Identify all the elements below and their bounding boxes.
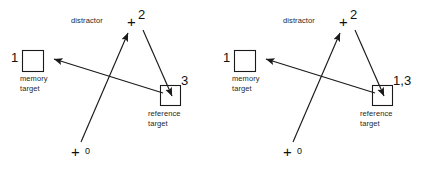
arrow-start-to-distractor [81,33,128,142]
memory-target-caption-line1: memory [20,75,48,83]
diagram-panel-left: 1 memory target distractor + 2 3 referen… [0,0,212,174]
memory-target-caption-line2: target [20,85,40,93]
arrow-distractor-to-reference [355,30,384,96]
distractor-plus-marker: + [127,14,136,29]
memory-target-caption-line2: target [232,85,252,93]
arrow-distractor-to-reference [143,30,172,96]
distractor-caption: distractor [71,17,103,25]
reference-target-number: 3 [181,74,188,88]
distractor-number: 2 [138,8,145,22]
diagram-panel-right: 1 memory target distractor + 2 1,3 refer… [212,0,424,174]
start-fixation-plus-marker: + [71,144,80,159]
reference-target-square [373,86,393,106]
memory-target-number: 1 [223,51,230,65]
distractor-plus-marker: + [339,14,348,29]
start-fixation-number: 0 [85,147,90,156]
arrow-start-to-distractor [293,33,340,142]
reference-target-number: 1,3 [393,74,411,88]
reference-target-caption-line1: reference [360,110,393,118]
reference-target-caption-line1: reference [148,110,181,118]
memory-target-square [23,51,44,72]
distractor-number: 2 [350,8,357,22]
start-fixation-plus-marker: + [283,144,292,159]
arrow-reference-to-memory [54,59,163,93]
reference-target-square [161,86,181,106]
two-panel-saccade-diagram: 1 memory target distractor + 2 3 referen… [0,0,425,174]
arrow-reference-to-memory [266,59,375,93]
reference-target-caption-line2: target [148,120,168,128]
start-fixation-number: 0 [297,147,302,156]
memory-target-number: 1 [11,51,18,65]
reference-target-caption-line2: target [360,120,380,128]
memory-target-square [235,51,256,72]
distractor-caption: distractor [283,17,315,25]
memory-target-caption-line1: memory [232,75,260,83]
